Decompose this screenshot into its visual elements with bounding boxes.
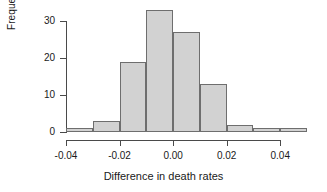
x-axis-tick-label: 0.04	[258, 150, 302, 161]
x-axis-label: Difference in death rates	[0, 170, 327, 183]
x-axis-tick-label: -0.04	[44, 150, 88, 161]
y-axis-tick-label: 0	[15, 127, 55, 137]
histogram-bar	[120, 62, 147, 132]
histogram-bar	[280, 128, 307, 132]
x-axis-tick	[227, 140, 228, 146]
y-axis-tick-label: 10	[15, 90, 55, 100]
x-axis-tick	[120, 140, 121, 146]
y-axis-label: Frequency	[3, 0, 21, 52]
histogram-bar	[146, 10, 173, 132]
y-axis-tick-label: 30	[15, 16, 55, 26]
histogram-bar	[93, 121, 120, 132]
histogram-bar	[227, 125, 254, 132]
x-axis-tick	[173, 140, 174, 146]
x-axis-tick	[280, 140, 281, 146]
y-axis-tick	[60, 132, 66, 133]
histogram-bar	[66, 128, 93, 132]
histogram-chart: Frequency 0102030 -0.04-0.020.000.020.04…	[0, 0, 327, 192]
x-axis-tick-label: 0.00	[151, 150, 195, 161]
histogram-bar	[173, 32, 200, 132]
x-axis-tick-label: 0.02	[205, 150, 249, 161]
histogram-bar	[200, 84, 227, 132]
plot-area	[66, 21, 307, 132]
x-axis-tick-label: -0.02	[98, 150, 142, 161]
y-axis-tick-label: 20	[15, 53, 55, 63]
histogram-bar	[253, 128, 280, 132]
x-axis-tick	[66, 140, 67, 146]
